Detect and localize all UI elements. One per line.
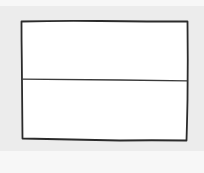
sketch-canvas <box>0 0 204 173</box>
bottom-panel <box>22 80 188 141</box>
wireframe-sketch <box>0 0 204 173</box>
top-panel <box>22 21 188 81</box>
